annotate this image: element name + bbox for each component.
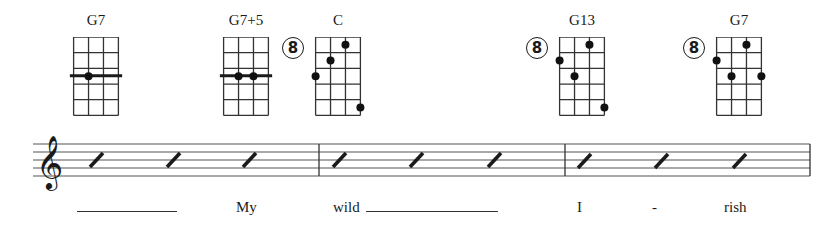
finger-dot [327,57,335,65]
fretboard-grid [216,37,276,121]
chord-name: G7 [52,11,140,29]
lyric-syllable: My [236,198,257,216]
chord-name: G7+5 [202,11,290,29]
fret-position-marker: 8 [526,37,548,59]
lyric-extender-line [366,211,498,212]
finger-dot [742,41,750,49]
finger-dot [600,104,608,112]
staff-lines [33,144,810,176]
finger-dot [85,72,93,80]
chord-name: C [294,11,382,29]
lyric-syllable: I [577,198,582,216]
finger-dot [341,41,349,49]
finger-dot [249,72,257,80]
fretboard-grid [552,37,612,121]
finger-dot [235,72,243,80]
chord-name: G7 [695,11,783,29]
finger-dot [757,72,765,80]
finger-dot [571,72,579,80]
lyric-syllable: wild [333,198,360,216]
fretboard-grid [308,37,368,121]
finger-dot [356,104,364,112]
finger-dot [728,72,736,80]
lyric-syllable: - [652,198,657,216]
lyric-syllable: rish [724,198,747,216]
treble-clef-icon: 𝄞 [36,135,63,191]
finger-dot [585,41,593,49]
fret-position-marker: 8 [683,37,705,59]
fretboard-grid [66,37,126,121]
finger-dot [556,57,564,65]
chord-name: G13 [538,11,626,29]
fretboard-grid [709,37,769,121]
finger-dot [312,72,320,80]
lyric-extender-line [77,211,177,212]
fret-position-marker: 8 [282,37,304,59]
finger-dot [713,57,721,65]
